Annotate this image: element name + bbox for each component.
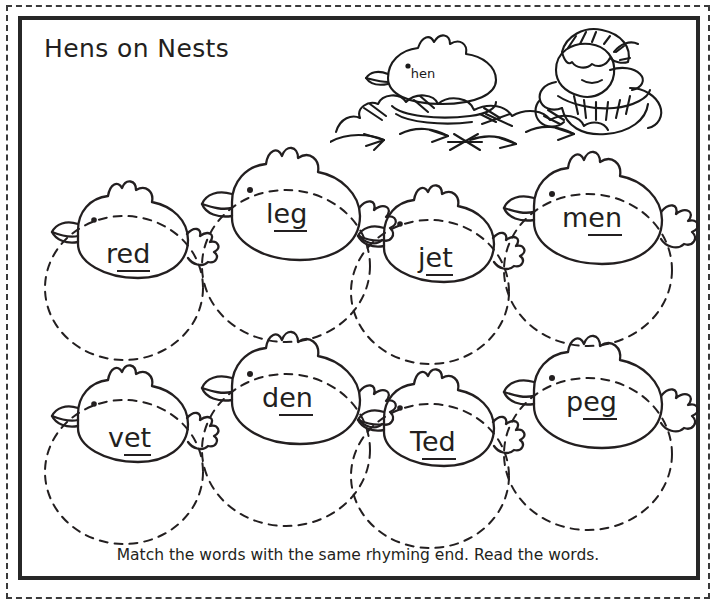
header-illustration: [330, 22, 690, 154]
hen-word-red: red: [106, 238, 150, 269]
hen-word-den: den: [262, 382, 313, 413]
word-rime: ed: [117, 238, 151, 272]
hen-word-peg: peg: [566, 386, 617, 417]
word-onset: l: [266, 198, 274, 229]
word-rime: ed: [422, 426, 456, 460]
worksheet-page: Hens on Nests: [0, 0, 716, 612]
word-rime: eg: [583, 386, 617, 420]
word-onset: T: [410, 426, 422, 457]
hen-word-vet: vet: [108, 422, 151, 453]
hen-cell-peg: peg: [490, 332, 690, 542]
hen-word-men: men: [562, 202, 622, 233]
word-onset: j: [418, 242, 426, 273]
word-rime: et: [124, 422, 151, 456]
word-rime: et: [426, 242, 453, 276]
word-rime: en: [588, 202, 622, 236]
word-onset: v: [108, 422, 124, 453]
instruction-text: Match the words with the same rhyming en…: [0, 546, 716, 564]
word-onset: m: [562, 202, 588, 233]
word-onset: p: [566, 386, 583, 417]
word-onset: d: [262, 382, 279, 413]
hen-word-ted: Ted: [410, 426, 456, 457]
hen-cell-men: men: [490, 148, 690, 358]
word-rime: en: [279, 382, 313, 416]
word-rime: eg: [274, 198, 308, 232]
hen-body-word: hen: [400, 66, 446, 81]
hen-word-leg: leg: [266, 198, 307, 229]
page-title: Hens on Nests: [44, 34, 229, 63]
hen-word-jet: jet: [418, 242, 453, 273]
word-onset: r: [106, 238, 117, 269]
